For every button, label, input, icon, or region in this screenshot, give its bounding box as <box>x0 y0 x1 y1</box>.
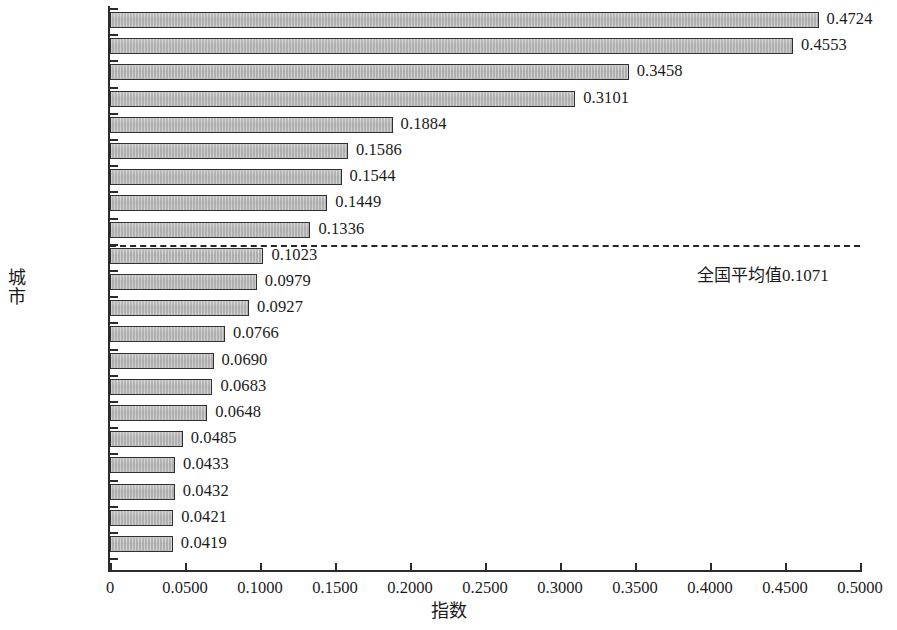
x-axis-ticks: 00.05000.10000.15000.20000.25000.30000.3… <box>110 572 860 602</box>
y-axis-tick <box>109 427 118 429</box>
bar-chart: 城市 指数 深圳市0.4724珠海市0.4553广州市0.3458惠州市0.31… <box>0 0 897 630</box>
x-axis-tick <box>785 563 787 572</box>
y-axis-tick <box>109 218 118 220</box>
bar-value-label: 0.1884 <box>401 112 447 136</box>
bar-value-label: 0.1449 <box>335 190 381 214</box>
national-average-line <box>110 245 860 247</box>
x-axis-tick-label: 0.1500 <box>312 578 357 598</box>
x-axis-tick <box>335 563 337 572</box>
x-axis-tick <box>110 563 112 572</box>
x-axis-tick-label: 0.4500 <box>762 578 807 598</box>
bar-value-label: 0.0485 <box>191 426 237 450</box>
x-axis-tick-label: 0 <box>106 578 114 598</box>
x-axis-tick <box>260 563 262 572</box>
bar <box>110 248 263 264</box>
bar-row: 河源市0.0432 <box>110 480 860 506</box>
y-axis-tick <box>109 139 118 141</box>
bar-row: 江门市0.0927 <box>110 296 860 322</box>
bar-row: 汕尾市0.0419 <box>110 532 860 558</box>
bar-row: 潮州市0.0690 <box>110 349 860 375</box>
bar-value-label: 0.0433 <box>183 452 229 476</box>
bar <box>110 326 225 342</box>
bar-row: 东莞市0.1884 <box>110 113 860 139</box>
bar-row: 湛江市0.1544 <box>110 165 860 191</box>
bar <box>110 484 175 500</box>
y-axis-tick <box>109 60 118 62</box>
y-axis-tick <box>109 34 118 36</box>
bar <box>110 457 175 473</box>
bar-row: 汕头市0.1336 <box>110 218 860 244</box>
bar <box>110 143 348 159</box>
x-axis-tick-label: 0.4000 <box>687 578 732 598</box>
y-axis-tick <box>109 165 118 167</box>
bar-row: 中山市0.1449 <box>110 191 860 217</box>
bar <box>110 222 310 238</box>
bar <box>110 117 393 133</box>
bar-value-label: 0.3458 <box>637 59 683 83</box>
bar-row: 惠州市0.3101 <box>110 87 860 113</box>
x-axis-tick <box>635 563 637 572</box>
bar <box>110 274 257 290</box>
bar-value-label: 0.0683 <box>220 374 266 398</box>
bar-value-label: 0.4553 <box>801 33 847 57</box>
bar-value-label: 0.0419 <box>181 531 227 555</box>
bar-row: 阳江市0.0648 <box>110 401 860 427</box>
bar-value-label: 0.1544 <box>350 164 396 188</box>
x-axis-tick <box>710 563 712 572</box>
bar <box>110 38 793 54</box>
bar <box>110 91 575 107</box>
bar <box>110 353 214 369</box>
bar-value-label: 0.0927 <box>257 295 303 319</box>
y-axis-tick <box>109 113 118 115</box>
x-axis-tick <box>485 563 487 572</box>
bar <box>110 431 183 447</box>
x-axis-tick <box>860 563 862 572</box>
y-axis-tick <box>109 296 118 298</box>
y-axis-tick <box>109 191 118 193</box>
bar-value-label: 0.4724 <box>827 7 873 31</box>
x-axis-tick <box>560 563 562 572</box>
y-axis-tick <box>109 453 118 455</box>
x-axis-tick <box>185 563 187 572</box>
bar-value-label: 0.0690 <box>222 348 268 372</box>
bar <box>110 64 629 80</box>
x-axis-tick-label: 0.3500 <box>612 578 657 598</box>
y-axis-tick <box>109 349 118 351</box>
y-axis-tick <box>109 322 118 324</box>
y-axis-tick <box>109 558 118 560</box>
y-axis-tick <box>109 480 118 482</box>
bar-value-label: 0.0648 <box>215 400 261 424</box>
bar <box>110 536 173 552</box>
bar-value-label: 0.3101 <box>583 86 629 110</box>
bar <box>110 169 342 185</box>
y-axis-tick <box>109 375 118 377</box>
y-axis-tick <box>109 87 118 89</box>
y-axis-title: 城市 <box>2 268 28 306</box>
bar-row: 韶关市0.0421 <box>110 506 860 532</box>
bar <box>110 379 212 395</box>
x-axis-tick-label: 0.1000 <box>237 578 282 598</box>
bar-row: 珠海市0.4553 <box>110 34 860 60</box>
plot-area: 深圳市0.4724珠海市0.4553广州市0.3458惠州市0.3101东莞市0… <box>110 8 860 570</box>
y-axis-tick <box>109 506 118 508</box>
bar <box>110 300 249 316</box>
x-axis-tick-label: 0.2000 <box>387 578 432 598</box>
bar <box>110 195 327 211</box>
bar <box>110 510 173 526</box>
bar-row: 广州市0.3458 <box>110 60 860 86</box>
y-axis-tick <box>109 270 118 272</box>
national-average-label: 全国平均值0.1071 <box>697 265 829 287</box>
bar-value-label: 0.0979 <box>265 269 311 293</box>
bar-row: 茂名市0.0683 <box>110 375 860 401</box>
bar-row: 揭阳市0.0485 <box>110 427 860 453</box>
bar-row: 深圳市0.4724 <box>110 8 860 34</box>
bar-value-label: 0.0766 <box>233 321 279 345</box>
bar-value-label: 0.0432 <box>183 479 229 503</box>
bar-row: 佛山市0.1586 <box>110 139 860 165</box>
bar-row: 清远市0.0766 <box>110 322 860 348</box>
bar-value-label: 0.1336 <box>318 217 364 241</box>
bar <box>110 12 819 28</box>
x-axis-tick-label: 0.5000 <box>837 578 882 598</box>
x-axis-tick-label: 0.3000 <box>537 578 582 598</box>
x-axis-tick-label: 0.0500 <box>162 578 207 598</box>
